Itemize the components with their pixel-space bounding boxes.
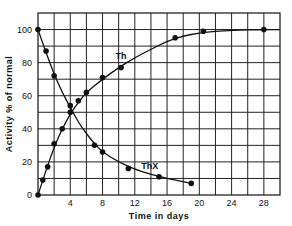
y-tick-label: 20 xyxy=(22,157,32,167)
point-th xyxy=(84,90,90,96)
point-thx xyxy=(126,166,132,172)
x-tick-label: 28 xyxy=(259,198,269,208)
point-thx xyxy=(35,27,41,33)
point-th xyxy=(201,28,207,34)
plot-border xyxy=(38,13,280,195)
point-th xyxy=(67,109,73,115)
point-th xyxy=(261,27,267,33)
x-tick-label: 8 xyxy=(100,198,105,208)
y-tick-label: 100 xyxy=(17,25,32,35)
point-th xyxy=(59,126,65,132)
point-thx xyxy=(188,181,194,187)
x-tick-label: 20 xyxy=(194,198,204,208)
point-th xyxy=(100,75,106,81)
grid-lines xyxy=(38,13,280,195)
x-tick-label: 4 xyxy=(68,198,73,208)
y-tick-label: 40 xyxy=(22,124,32,134)
point-th xyxy=(45,164,51,170)
line-chart: 481216202428020406080100 ThThX Time in d… xyxy=(0,0,292,226)
point-th xyxy=(35,192,41,198)
label-thx: ThX xyxy=(141,161,158,171)
point-th xyxy=(76,98,82,104)
y-tick-label: 0 xyxy=(27,190,32,200)
axis-ticks: 481216202428020406080100 xyxy=(17,25,269,208)
y-tick-label: 80 xyxy=(22,58,32,68)
point-th xyxy=(118,65,124,71)
point-thx xyxy=(67,103,73,109)
x-axis-label: Time in days xyxy=(129,211,189,221)
point-thx xyxy=(100,149,106,155)
point-thx xyxy=(51,73,57,79)
label-th: Th xyxy=(115,51,126,61)
point-th xyxy=(51,141,57,147)
point-th xyxy=(172,35,178,41)
point-thx xyxy=(43,48,49,54)
x-tick-label: 16 xyxy=(162,198,172,208)
x-tick-label: 12 xyxy=(130,198,140,208)
point-thx xyxy=(92,143,98,149)
point-th xyxy=(40,177,46,183)
y-tick-label: 60 xyxy=(22,91,32,101)
y-axis-label: Activity % of normal xyxy=(4,56,14,153)
x-tick-label: 24 xyxy=(227,198,237,208)
point-thx xyxy=(156,174,162,180)
plot-frame xyxy=(38,13,280,195)
